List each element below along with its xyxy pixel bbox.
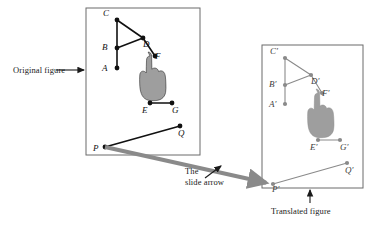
vertex-label-Q: Q bbox=[178, 128, 185, 138]
translation-diagram-canvas bbox=[0, 0, 373, 225]
vertex-label-B: B bbox=[102, 42, 108, 52]
vertex-label-P′: P′ bbox=[272, 184, 279, 194]
vertex-point-E bbox=[148, 101, 153, 106]
vertex-label-B′: B′ bbox=[269, 79, 276, 89]
vertex-label-A′: A′ bbox=[269, 99, 276, 109]
vertex-label-F′: F′ bbox=[322, 88, 329, 98]
vertex-label-C: C bbox=[103, 8, 109, 18]
vertex-label-C′: C′ bbox=[270, 46, 278, 56]
vertex-label-F: F bbox=[155, 51, 161, 61]
vertex-label-A: A bbox=[102, 63, 108, 73]
vertex-label-D′: D′ bbox=[311, 76, 319, 86]
vertex-label-P: P bbox=[93, 143, 99, 153]
caption-original-figure: Original figure bbox=[13, 65, 65, 75]
vertex-point-A bbox=[115, 66, 120, 71]
vertex-point-B bbox=[115, 46, 120, 51]
vertex-label-E: E bbox=[142, 105, 148, 115]
caption-slide-arrow: The slide arrow bbox=[185, 166, 224, 188]
diagram-root: Original figure The slide arrow Translat… bbox=[0, 0, 373, 225]
caption-slide-arrow-line1: The bbox=[185, 166, 224, 177]
caption-slide-arrow-line2: slide arrow bbox=[185, 177, 224, 188]
caption-translated-figure: Translated figure bbox=[271, 206, 331, 216]
vertex-label-G: G bbox=[172, 105, 179, 115]
vertex-point-C′ bbox=[283, 56, 287, 60]
vertex-point-C bbox=[115, 18, 120, 23]
vertex-point-A′ bbox=[283, 102, 287, 106]
vertex-label-D: D bbox=[143, 39, 150, 49]
vertex-point-B′ bbox=[283, 83, 287, 87]
vertex-label-E′: E′ bbox=[310, 142, 317, 152]
vertex-label-G′: G′ bbox=[340, 142, 348, 152]
vertex-label-Q′: Q′ bbox=[345, 165, 353, 175]
